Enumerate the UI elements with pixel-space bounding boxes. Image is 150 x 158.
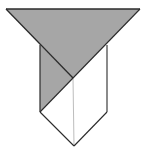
origami-figure: Folded paper / origami-style shape: gray… — [0, 0, 150, 158]
top-gray-triangle — [6, 9, 140, 78]
origami-diagram — [0, 0, 150, 158]
